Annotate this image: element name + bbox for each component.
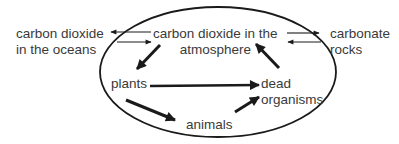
carbon-cycle-diagram: carbon dioxide in the oceans carbon diox… <box>0 0 399 144</box>
node-plants: plants <box>111 76 147 92</box>
node-oceans-line-2: in the oceans <box>16 42 104 58</box>
node-atmosphere-line-1: carbon dioxide in the <box>153 26 278 42</box>
node-animals: animals <box>186 117 233 133</box>
node-plants-line-1: plants <box>111 76 147 92</box>
node-dead-line-2: organisms <box>261 92 323 108</box>
node-rocks: carbonate rocks <box>330 26 390 58</box>
node-oceans-line-1: carbon dioxide <box>16 26 104 42</box>
node-rocks-line-2: rocks <box>330 42 390 58</box>
node-animals-line-1: animals <box>186 117 233 133</box>
node-dead-line-1: dead <box>261 76 323 92</box>
node-rocks-line-1: carbonate <box>330 26 390 42</box>
arrow-animals-to-dead <box>235 97 259 112</box>
node-oceans: carbon dioxide in the oceans <box>16 26 104 58</box>
node-atmosphere-line-2: atmosphere <box>153 42 278 58</box>
node-dead-organisms: dead organisms <box>261 76 323 108</box>
node-atmosphere: carbon dioxide in the atmosphere <box>153 26 278 58</box>
arrow-plants-to-dead <box>150 85 259 86</box>
